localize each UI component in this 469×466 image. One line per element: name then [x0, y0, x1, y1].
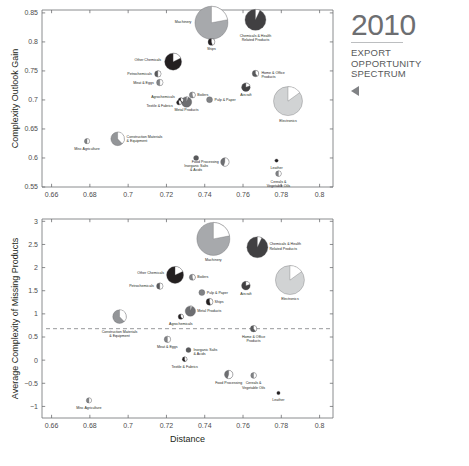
bubble-marker[interactable] — [247, 237, 268, 258]
bubble-marker[interactable] — [276, 171, 282, 177]
bubble-marker[interactable] — [189, 92, 195, 98]
bubble-label: Construction Materials — [127, 135, 163, 139]
year-title: 2010 — [351, 10, 422, 40]
bubble-label: Chemicals & Health — [269, 242, 301, 246]
bubble-label: Boilers — [197, 93, 208, 97]
bubble-label: & Acids — [190, 168, 202, 172]
bubble-marker[interactable] — [165, 53, 182, 70]
bubble-label: Other Chemicals — [134, 58, 161, 62]
bubble-marker[interactable] — [182, 357, 187, 362]
panel-subtitle: EXPORT OPPORTUNITY SPECTRUM — [351, 48, 422, 80]
bubble-label: Vegetable Oils — [242, 386, 265, 390]
bubble-label: Leather — [272, 398, 285, 402]
bubble-marker[interactable] — [221, 158, 229, 166]
y-tick-label: 0.6 — [28, 154, 38, 161]
bubble-label: Misc Agriculture — [74, 147, 99, 151]
x-tick-label: 0.8 — [315, 191, 325, 198]
bubble-marker[interactable] — [252, 70, 258, 76]
bubble-label: Agrochemicals — [151, 95, 175, 99]
legend-panel: 2010 EXPORT OPPORTUNITY SPECTRUM FRACTIO… — [341, 0, 469, 466]
panel-subtitle-line3: SPECTRUM — [351, 69, 422, 80]
bubble-marker[interactable] — [207, 97, 213, 103]
bubble-marker[interactable] — [186, 347, 191, 352]
bubble-marker[interactable] — [250, 325, 256, 331]
bubble-marker[interactable] — [195, 6, 228, 39]
bubble-marker[interactable] — [155, 71, 161, 77]
bubble-marker[interactable] — [208, 39, 215, 46]
y-tick-label: 0 — [34, 357, 38, 364]
bubble-marker[interactable] — [164, 336, 170, 342]
bubble-label: Ships — [207, 47, 216, 51]
y-tick-label: 0.65 — [24, 125, 38, 132]
bubble-label: & Equipment — [109, 334, 130, 338]
bubble-marker[interactable] — [157, 79, 163, 85]
bubble-label: Machinery — [205, 258, 222, 262]
bubble-label: Related Products — [242, 38, 270, 42]
bubble-label: Chemicals & Health — [240, 34, 272, 38]
x-tick-label: 0.8 — [315, 422, 325, 429]
bubble-marker[interactable] — [206, 298, 213, 305]
bubble-marker[interactable] — [224, 370, 232, 378]
x-tick-label: 0.76 — [236, 422, 250, 429]
bubble-marker[interactable] — [274, 87, 303, 116]
y-tick-label: 1 — [34, 310, 38, 317]
bubble-label: & Equipment — [127, 139, 148, 143]
x-tick-label: 0.78 — [274, 191, 288, 198]
x-tick-label: 0.72 — [160, 191, 174, 198]
bubble-marker[interactable] — [111, 132, 125, 146]
bubble-marker[interactable] — [197, 222, 230, 255]
complexity-outlook-gain-chart: 0.660.680.70.720.740.760.780.80.550.60.6… — [0, 0, 341, 205]
x-tick-label: 0.66 — [45, 422, 59, 429]
bubble-label: Boilers — [197, 275, 208, 279]
bubble-label: Home & Office — [261, 71, 284, 75]
bubble-label: Related Products — [269, 247, 297, 251]
bubble-label: Home & Office — [242, 335, 265, 339]
bubble-marker[interactable] — [113, 310, 127, 324]
bubble-label: Cereals & — [271, 180, 287, 184]
y-tick-label: 2.5 — [28, 241, 38, 248]
y-tick-label: 0.75 — [24, 67, 38, 74]
bubble-marker[interactable] — [199, 290, 205, 296]
bubble-label: Products — [246, 339, 260, 343]
bubble-label: Other Chemicals — [137, 271, 164, 275]
bubble-marker[interactable] — [189, 274, 195, 280]
bubble-label: Petrochemicals — [127, 72, 152, 76]
bubble-label: Inorganic Salts — [184, 164, 208, 168]
x-tick-label: 0.7 — [123, 422, 133, 429]
bubble-label: Meat & Eggs — [157, 345, 178, 349]
bubble-marker[interactable] — [157, 283, 163, 289]
y-tick-label: 0.85 — [24, 9, 38, 16]
bubble-label: Pulp & Paper — [215, 98, 237, 102]
y-tick-label: 1.5 — [28, 287, 38, 294]
y-tick-label: 0.5 — [28, 333, 38, 340]
y-tick-label: 3 — [34, 218, 38, 225]
bubble-marker[interactable] — [84, 139, 89, 144]
bubble-marker[interactable] — [275, 266, 304, 295]
average-complexity-missing-products-chart: 0.660.680.70.720.740.760.780.8−1−0.500.5… — [0, 205, 341, 466]
bubble-marker[interactable] — [185, 306, 195, 316]
title-divider — [351, 42, 403, 43]
bubble-marker[interactable] — [277, 391, 280, 394]
bubble-label: Textile & Fabrics — [171, 365, 198, 369]
bubble-marker[interactable] — [178, 314, 183, 319]
bubble-marker[interactable] — [194, 155, 199, 160]
bubble-label: Metal Products — [175, 108, 199, 112]
bubble-marker[interactable] — [86, 398, 91, 403]
bubble-label: Products — [261, 75, 275, 79]
bubble-label: Inorganic Salts — [193, 348, 217, 352]
left-triangle-icon[interactable] — [351, 86, 359, 96]
bubble-marker[interactable] — [275, 159, 278, 162]
bubble-label: Cereals & — [246, 381, 262, 385]
bubble-marker[interactable] — [245, 9, 266, 30]
bubble-marker[interactable] — [167, 266, 184, 283]
bubble-label: Construction Materials — [102, 330, 138, 334]
bubble-marker[interactable] — [176, 100, 181, 105]
bubble-marker[interactable] — [242, 83, 251, 92]
x-tick-label: 0.78 — [274, 422, 288, 429]
y-axis-title: Average Complexity of Missing Products — [10, 237, 20, 399]
bubble-label: Machinery — [175, 20, 192, 24]
bubble-label: Food Processing — [215, 381, 242, 385]
bubble-marker[interactable] — [242, 281, 251, 290]
x-tick-label: 0.76 — [236, 191, 250, 198]
bubble-marker[interactable] — [251, 373, 257, 379]
